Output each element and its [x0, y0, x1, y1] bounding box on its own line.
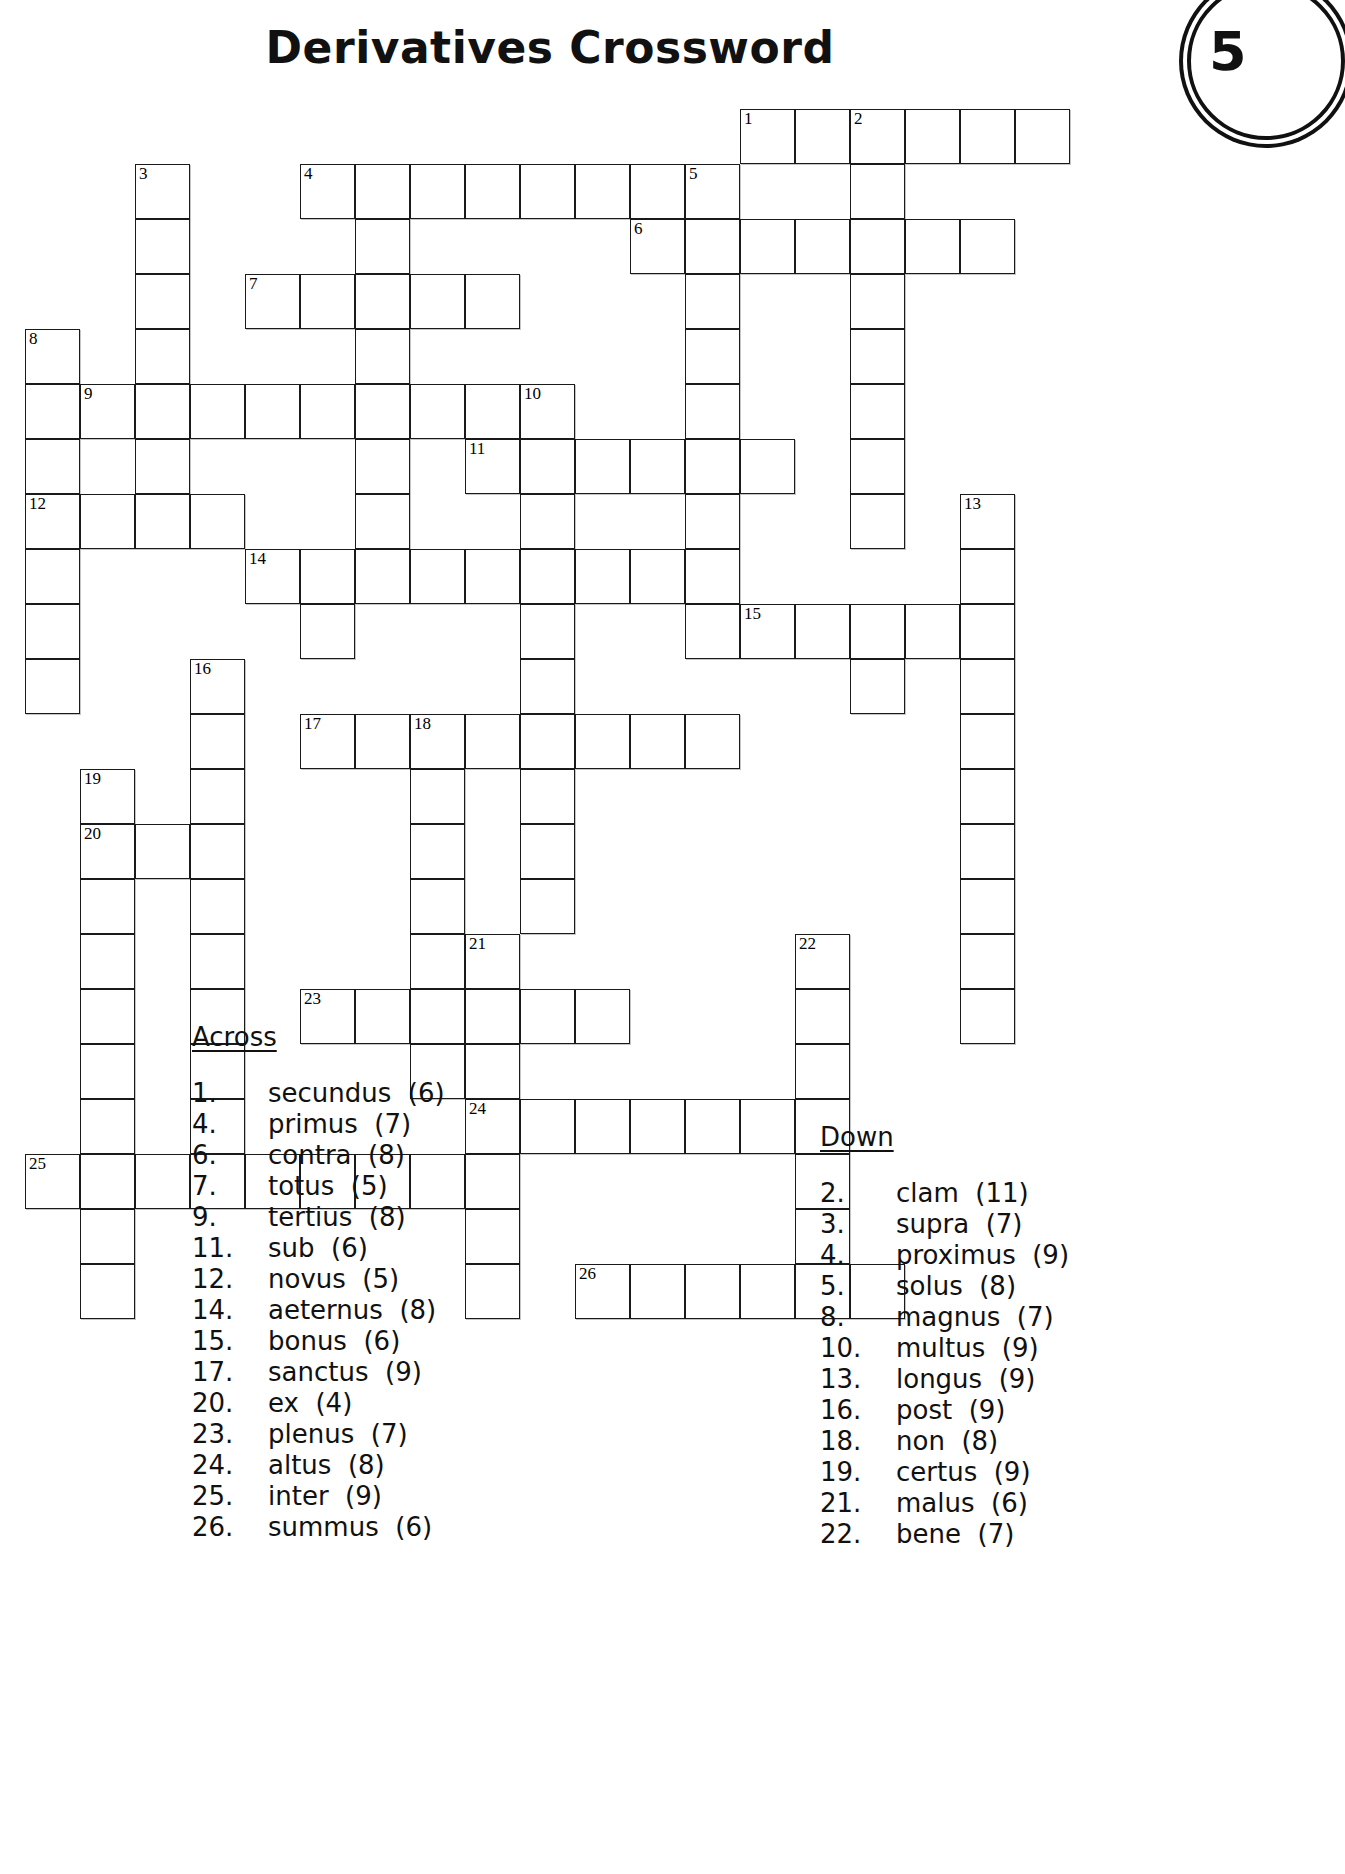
crossword-cell[interactable] — [520, 604, 575, 659]
crossword-cell[interactable] — [685, 604, 740, 659]
crossword-cell[interactable] — [795, 109, 850, 164]
crossword-cell[interactable] — [465, 549, 520, 604]
crossword-cell[interactable] — [685, 439, 740, 494]
crossword-cell[interactable] — [80, 1209, 135, 1264]
crossword-cell[interactable] — [190, 934, 245, 989]
crossword-cell[interactable] — [960, 824, 1015, 879]
crossword-cell[interactable] — [520, 494, 575, 549]
crossword-cell[interactable] — [960, 934, 1015, 989]
crossword-cell[interactable] — [190, 879, 245, 934]
crossword-cell-numbered[interactable]: 3 — [135, 164, 190, 219]
crossword-cell[interactable] — [465, 1044, 520, 1099]
crossword-cell[interactable] — [520, 439, 575, 494]
crossword-cell[interactable] — [850, 164, 905, 219]
crossword-cell[interactable] — [575, 549, 630, 604]
crossword-cell[interactable] — [465, 164, 520, 219]
crossword-cell[interactable] — [575, 989, 630, 1044]
crossword-cell[interactable] — [630, 1264, 685, 1319]
crossword-cell[interactable] — [850, 604, 905, 659]
crossword-cell[interactable] — [465, 714, 520, 769]
crossword-cell[interactable] — [135, 219, 190, 274]
crossword-cell[interactable] — [685, 1264, 740, 1319]
crossword-cell[interactable] — [190, 714, 245, 769]
crossword-cell[interactable] — [300, 549, 355, 604]
crossword-cell[interactable] — [960, 219, 1015, 274]
crossword-cell-numbered[interactable]: 7 — [245, 274, 300, 329]
crossword-cell[interactable] — [135, 439, 190, 494]
crossword-cell[interactable] — [410, 274, 465, 329]
crossword-cell-numbered[interactable]: 8 — [25, 329, 80, 384]
crossword-cell[interactable] — [410, 549, 465, 604]
crossword-cell[interactable] — [135, 1154, 190, 1209]
crossword-cell[interactable] — [410, 384, 465, 439]
crossword-cell[interactable] — [630, 549, 685, 604]
crossword-cell[interactable] — [355, 549, 410, 604]
crossword-cell[interactable] — [795, 1044, 850, 1099]
crossword-cell-numbered[interactable]: 17 — [300, 714, 355, 769]
crossword-cell[interactable] — [905, 109, 960, 164]
crossword-cell[interactable] — [465, 1154, 520, 1209]
crossword-cell[interactable] — [465, 1264, 520, 1319]
crossword-cell[interactable] — [685, 274, 740, 329]
crossword-cell[interactable] — [410, 934, 465, 989]
crossword-cell[interactable] — [520, 769, 575, 824]
crossword-cell[interactable] — [685, 494, 740, 549]
crossword-cell[interactable] — [300, 604, 355, 659]
crossword-cell[interactable] — [740, 1264, 795, 1319]
crossword-cell[interactable] — [575, 439, 630, 494]
crossword-cell[interactable] — [520, 879, 575, 934]
crossword-cell[interactable] — [520, 714, 575, 769]
crossword-cell-numbered[interactable]: 20 — [80, 824, 135, 879]
crossword-cell[interactable] — [465, 1209, 520, 1264]
crossword-cell[interactable] — [135, 824, 190, 879]
crossword-cell[interactable] — [135, 384, 190, 439]
crossword-cell[interactable] — [135, 494, 190, 549]
crossword-cell[interactable] — [520, 989, 575, 1044]
crossword-cell[interactable] — [355, 384, 410, 439]
crossword-grid[interactable]: 1234567891011121314151617181920212223242… — [0, 0, 1100, 1130]
crossword-cell-numbered[interactable]: 4 — [300, 164, 355, 219]
crossword-cell[interactable] — [355, 219, 410, 274]
crossword-cell[interactable] — [630, 714, 685, 769]
crossword-cell[interactable] — [685, 384, 740, 439]
crossword-cell[interactable] — [25, 549, 80, 604]
crossword-cell[interactable] — [520, 549, 575, 604]
crossword-cell-numbered[interactable]: 26 — [575, 1264, 630, 1319]
crossword-cell[interactable] — [355, 494, 410, 549]
crossword-cell[interactable] — [520, 824, 575, 879]
crossword-cell[interactable] — [850, 329, 905, 384]
crossword-cell[interactable] — [355, 329, 410, 384]
crossword-cell[interactable] — [190, 494, 245, 549]
crossword-cell-numbered[interactable]: 18 — [410, 714, 465, 769]
crossword-cell[interactable] — [685, 1099, 740, 1154]
crossword-cell[interactable] — [410, 769, 465, 824]
crossword-cell-numbered[interactable]: 10 — [520, 384, 575, 439]
crossword-cell[interactable] — [25, 439, 80, 494]
crossword-cell[interactable] — [685, 329, 740, 384]
crossword-cell[interactable] — [465, 989, 520, 1044]
crossword-cell[interactable] — [520, 1099, 575, 1154]
crossword-cell-numbered[interactable]: 15 — [740, 604, 795, 659]
crossword-cell[interactable] — [960, 879, 1015, 934]
crossword-cell-numbered[interactable]: 2 — [850, 109, 905, 164]
crossword-cell[interactable] — [25, 659, 80, 714]
crossword-cell[interactable] — [575, 714, 630, 769]
crossword-cell[interactable] — [685, 549, 740, 604]
crossword-cell-numbered[interactable]: 5 — [685, 164, 740, 219]
crossword-cell[interactable] — [80, 934, 135, 989]
crossword-cell[interactable] — [355, 164, 410, 219]
crossword-cell-numbered[interactable]: 16 — [190, 659, 245, 714]
crossword-cell[interactable] — [795, 219, 850, 274]
crossword-cell-numbered[interactable]: 22 — [795, 934, 850, 989]
crossword-cell[interactable] — [80, 494, 135, 549]
crossword-cell[interactable] — [465, 384, 520, 439]
crossword-cell[interactable] — [245, 384, 300, 439]
crossword-cell[interactable] — [795, 604, 850, 659]
crossword-cell[interactable] — [905, 219, 960, 274]
crossword-cell[interactable] — [190, 769, 245, 824]
crossword-cell-numbered[interactable]: 24 — [465, 1099, 520, 1154]
crossword-cell[interactable] — [960, 549, 1015, 604]
crossword-cell-numbered[interactable]: 19 — [80, 769, 135, 824]
crossword-cell-numbered[interactable]: 11 — [465, 439, 520, 494]
crossword-cell[interactable] — [1015, 109, 1070, 164]
